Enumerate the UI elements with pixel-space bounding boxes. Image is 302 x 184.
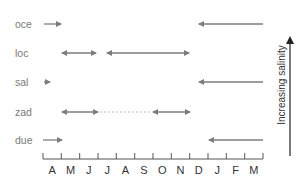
- row-label-loc: loc: [15, 47, 28, 59]
- month-label: J: [98, 164, 116, 176]
- month-label: M: [245, 164, 263, 176]
- row-label-due: due: [15, 134, 33, 146]
- month-label: O: [153, 164, 171, 176]
- row-label-sal: sal: [15, 76, 28, 88]
- month-label: S: [135, 164, 153, 176]
- month-label: M: [62, 164, 80, 176]
- month-label: F: [227, 164, 245, 176]
- month-label: A: [117, 164, 135, 176]
- month-label: D: [190, 164, 208, 176]
- salinity-timeline-diagram: oce loc sal zad due A M J J A S O N D J …: [0, 0, 302, 184]
- month-label: N: [172, 164, 190, 176]
- month-label: A: [43, 164, 61, 176]
- month-axis: [43, 153, 263, 159]
- row-label-zad: zad: [15, 106, 32, 118]
- month-label: J: [208, 164, 226, 176]
- month-label: J: [80, 164, 98, 176]
- diagram-graphics: [0, 0, 302, 184]
- row-label-oce: oce: [15, 18, 32, 30]
- salinity-axis-label: Increasing salinity: [276, 45, 287, 124]
